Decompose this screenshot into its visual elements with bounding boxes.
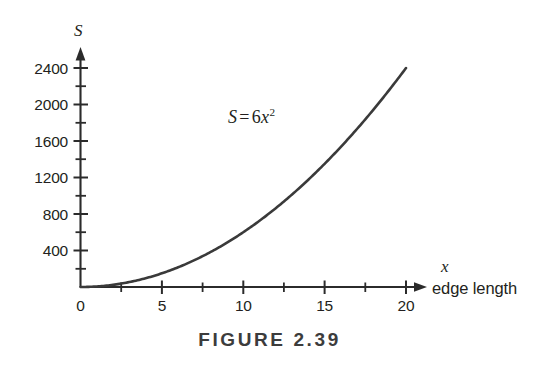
equation-operator: =: [237, 107, 251, 127]
x-axis-description: edge length: [432, 280, 517, 297]
equation-exponent: 2: [269, 106, 275, 118]
y-tick-label-2400: 2400: [24, 61, 68, 77]
x-axis-arrowhead: [414, 282, 427, 292]
figure-caption: FIGURE 2.39: [0, 329, 539, 351]
equation-lhs: S: [228, 107, 237, 127]
x-axis-title: x: [441, 258, 449, 275]
y-tick-label-1600: 1600: [24, 134, 68, 150]
y-axis-title: S: [74, 22, 83, 39]
x-tick-label-15: 15: [305, 298, 345, 314]
y-axis-arrowhead: [76, 47, 86, 61]
x-tick-label-5: 5: [142, 298, 182, 314]
equation-annotation: S=6x2: [228, 108, 275, 126]
y-tick-label-400: 400: [24, 243, 68, 259]
figure-container: 400 800 1200 1600 2000 2400 0 5 10 15 20…: [0, 0, 539, 368]
x-tick-label-10: 10: [223, 298, 263, 314]
y-tick-label-800: 800: [24, 207, 68, 223]
equation-coefficient: 6: [252, 107, 261, 127]
x-tick-label-20: 20: [386, 298, 426, 314]
data-curve-s-equals-6x-squared: [81, 68, 407, 287]
y-tick-label-2000: 2000: [24, 97, 68, 113]
x-tick-label-0: 0: [61, 298, 101, 314]
y-tick-label-1200: 1200: [24, 170, 68, 186]
